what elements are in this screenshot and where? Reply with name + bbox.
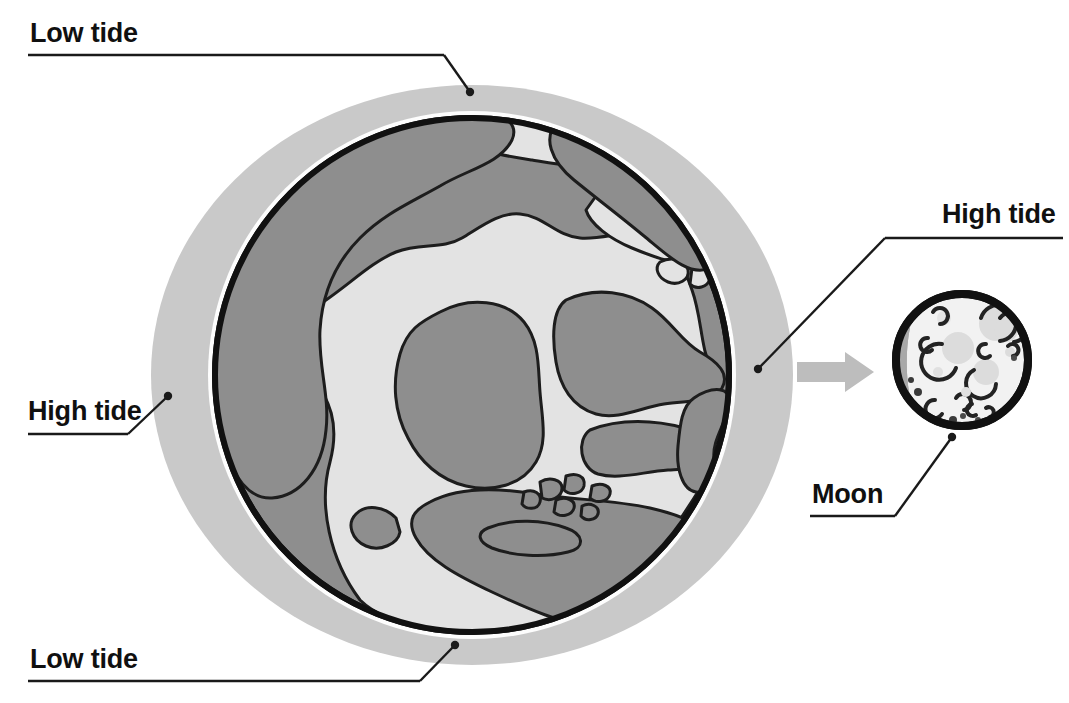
ocean-isle-4 bbox=[554, 498, 574, 515]
moon-speckle-1 bbox=[908, 377, 914, 383]
earth-group bbox=[151, 85, 793, 665]
moon-speckle-7 bbox=[933, 367, 943, 377]
tides-diagram: Low tideHigh tideLow tideHigh tideMoon bbox=[0, 0, 1069, 703]
ocean-isle-1 bbox=[540, 479, 562, 499]
ocean-peninsula-west bbox=[351, 508, 400, 548]
label-low-tide-bottom: Low tide bbox=[30, 644, 138, 674]
ocean-sliver-lower-mid bbox=[480, 521, 580, 555]
tides-diagram-stage: Low tideHigh tideLow tideHigh tideMoon bbox=[0, 0, 1069, 703]
moon-speckle-2 bbox=[914, 388, 922, 396]
leader-dot-high-tide-right bbox=[754, 365, 762, 373]
leader-dot-low-tide-top bbox=[466, 88, 474, 96]
moon-crater-fill-4 bbox=[973, 359, 999, 385]
label-high-tide-right: High tide bbox=[942, 199, 1056, 229]
label-moon: Moon bbox=[812, 479, 883, 509]
ocean-isle-2 bbox=[564, 474, 584, 493]
moon-speckle-8 bbox=[961, 387, 971, 397]
moon-speckle-3 bbox=[1011, 355, 1017, 361]
label-high-tide-left: High tide bbox=[28, 396, 142, 426]
leader-dot-high-tide-left bbox=[164, 392, 172, 400]
label-low-tide-top: Low tide bbox=[30, 18, 138, 48]
leader-dot-low-tide-bottom bbox=[451, 641, 459, 649]
moon-speckle-5 bbox=[960, 413, 966, 419]
ocean-isle-3 bbox=[590, 484, 610, 501]
ocean-isle-5 bbox=[581, 504, 598, 519]
leader-dot-moon bbox=[948, 433, 956, 441]
ocean-isle-6 bbox=[522, 491, 540, 509]
moon-crater-fill-3 bbox=[942, 332, 974, 364]
